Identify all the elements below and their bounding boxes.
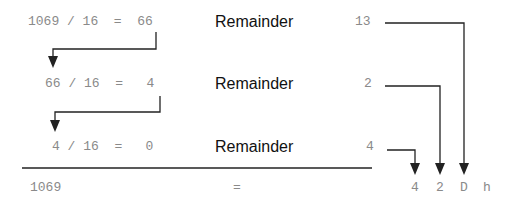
quotient-arrow-2 [55, 96, 160, 128]
result-hex-suffix: h [483, 180, 491, 195]
quotient-arrow-1 [53, 32, 156, 64]
remainder-label-1: Remainder [215, 13, 293, 31]
result-decimal: 1069 [30, 180, 61, 195]
remainder-arrow-4 [387, 150, 415, 170]
result-digit-1: 4 [411, 180, 419, 195]
equation-2: 66 / 16 = 4 [45, 76, 154, 91]
result-digit-3: D [460, 180, 468, 195]
remainder-arrow-13 [385, 23, 464, 170]
remainder-value-2: 2 [364, 76, 372, 91]
equation-3: 4 / 16 = 0 [52, 139, 153, 154]
remainder-label-2: Remainder [215, 75, 293, 93]
remainder-arrow-2 [385, 86, 440, 170]
remainder-value-1: 13 [355, 14, 371, 29]
result-equals: = [233, 180, 241, 195]
result-digit-2: 2 [436, 180, 444, 195]
remainder-value-3: 4 [366, 139, 374, 154]
remainder-label-3: Remainder [215, 138, 293, 156]
equation-1: 1069 / 16 = 66 [28, 14, 153, 29]
arrows-layer [0, 0, 526, 210]
